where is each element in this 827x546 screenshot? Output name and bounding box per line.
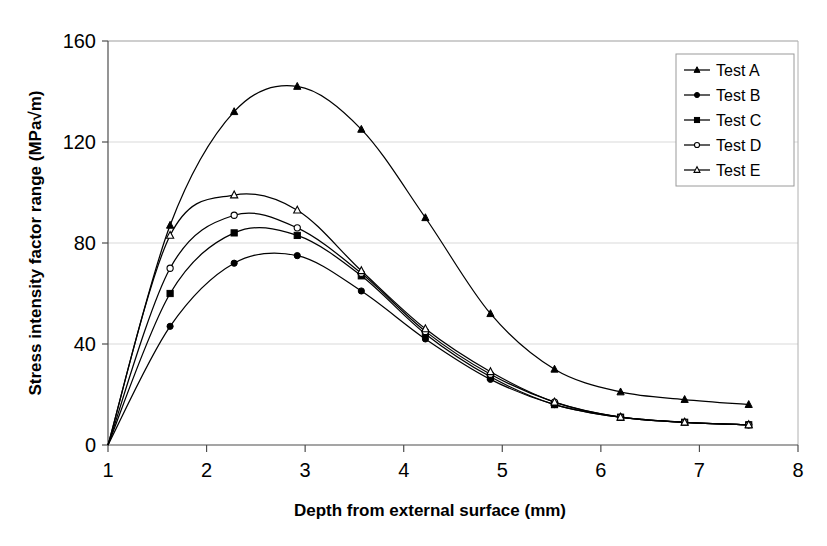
x-tick-label-8: 8 — [792, 459, 803, 481]
x-tick-label-6: 6 — [595, 459, 606, 481]
data-point — [167, 323, 173, 329]
x-tick-label-7: 7 — [694, 459, 705, 481]
data-point — [294, 232, 300, 238]
x-tick-label-3: 3 — [300, 459, 311, 481]
y-tick-label-0: 0 — [85, 434, 96, 456]
legend-label: Test B — [716, 87, 760, 104]
x-axis-title: Depth from external surface (mm) — [294, 501, 566, 520]
x-tick-label-4: 4 — [398, 459, 409, 481]
y-tick-label-40: 40 — [74, 333, 96, 355]
data-point — [294, 253, 300, 259]
legend-label: Test D — [716, 137, 761, 154]
stress-intensity-line-chart: 04080120160 12345678 Depth from external… — [0, 0, 827, 546]
y-tick-label-160: 160 — [63, 30, 96, 52]
data-point — [231, 212, 237, 218]
y-tick-label-80: 80 — [74, 232, 96, 254]
legend-marker-filled-circle-icon — [694, 92, 699, 97]
x-tick-label-1: 1 — [102, 459, 113, 481]
legend-label: Test A — [716, 62, 760, 79]
legend-marker-filled-square-icon — [694, 117, 699, 122]
data-point — [167, 265, 173, 271]
data-point — [294, 225, 300, 231]
data-point — [358, 288, 364, 294]
x-tick-label-2: 2 — [201, 459, 212, 481]
legend-label: Test C — [716, 112, 761, 129]
legend-label: Test E — [716, 162, 760, 179]
x-tick-label-5: 5 — [497, 459, 508, 481]
data-point — [231, 230, 237, 236]
chart-container: 04080120160 12345678 Depth from external… — [0, 0, 827, 546]
legend-marker-open-circle-icon — [694, 142, 699, 147]
data-point — [167, 290, 173, 296]
chart-legend[interactable]: Test ATest BTest CTest DTest E — [676, 54, 794, 186]
y-tick-label-120: 120 — [63, 131, 96, 153]
data-point — [231, 260, 237, 266]
y-axis-title: Stress intensity factor range (MPa√m) — [26, 90, 45, 395]
